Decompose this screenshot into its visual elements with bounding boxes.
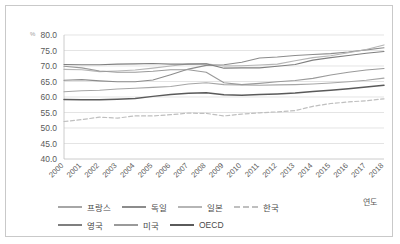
x-tick-label: 2002 — [83, 161, 101, 179]
series-lines — [64, 45, 384, 122]
legend-label: 일본 — [207, 201, 223, 213]
x-tick-label: 2013 — [278, 161, 296, 179]
series-line-2 — [64, 45, 384, 72]
legend-row-1: 프랑스독일일본한국 — [58, 198, 358, 216]
x-tick-label: 2016 — [332, 161, 350, 179]
legend-swatch-icon — [58, 206, 82, 208]
legend-item[interactable]: 독일 — [122, 201, 167, 213]
x-tick-label: 2011 — [243, 161, 261, 179]
x-tick-label: 2017 — [349, 161, 367, 179]
x-tick-label: 2014 — [296, 161, 314, 179]
chart-frame: % 80.075.070.065.060.055.050.045.040.0 2… — [5, 5, 393, 237]
legend-label: OECD — [199, 220, 224, 230]
legend-swatch-icon — [58, 224, 82, 226]
legend-label: 미국 — [143, 219, 159, 231]
x-tick-label: 2015 — [314, 161, 332, 179]
y-tick-label: 70.0 — [40, 61, 57, 71]
legend-item[interactable]: 프랑스 — [58, 201, 111, 213]
chart-legend: 프랑스독일일본한국 영국미국OECD — [58, 198, 358, 234]
x-tick-label: 2018 — [367, 161, 385, 179]
legend-item[interactable]: OECD — [170, 220, 224, 230]
legend-label: 영국 — [87, 219, 103, 231]
x-tick-label: 2012 — [260, 161, 278, 179]
legend-item[interactable]: 영국 — [58, 219, 103, 231]
y-tick-label: 50.0 — [40, 123, 57, 133]
legend-label: 독일 — [151, 201, 167, 213]
x-tick-label: 2007 — [172, 161, 190, 179]
legend-item[interactable]: 일본 — [178, 201, 223, 213]
legend-item[interactable]: 미국 — [114, 219, 159, 231]
legend-label: 한국 — [263, 201, 279, 213]
legend-swatch-icon — [170, 224, 194, 226]
x-tick-label: 2004 — [118, 161, 136, 179]
x-tick-label: 2006 — [154, 161, 172, 179]
legend-swatch-icon — [122, 206, 146, 208]
x-axis-title: 연도 — [363, 196, 377, 207]
y-tick-label: 75.0 — [40, 46, 57, 56]
y-tick-label: 80.0 — [40, 30, 57, 40]
x-tick-label: 2008 — [189, 161, 207, 179]
series-line-3 — [64, 99, 384, 122]
x-tick-label: 2003 — [100, 161, 118, 179]
legend-label: 프랑스 — [87, 201, 111, 213]
x-tick-label: 2001 — [65, 161, 83, 179]
legend-swatch-icon — [114, 224, 138, 226]
y-axis-ticks: 80.075.070.065.060.055.050.045.040.0 — [40, 30, 57, 164]
x-tick-label: 2005 — [136, 161, 154, 179]
y-tick-label: 65.0 — [40, 77, 57, 87]
series-line-6 — [64, 85, 384, 100]
legend-swatch-icon — [234, 206, 258, 208]
legend-swatch-icon — [178, 206, 202, 208]
x-tick-label: 2010 — [225, 161, 243, 179]
x-tick-label: 2009 — [207, 161, 225, 179]
y-tick-label: 40.0 — [40, 154, 57, 164]
legend-item[interactable]: 한국 — [234, 201, 279, 213]
y-tick-label: 55.0 — [40, 108, 57, 118]
y-tick-label: 45.0 — [40, 139, 57, 149]
y-tick-label: 60.0 — [40, 92, 57, 102]
x-axis-ticks: 2000200120022003200420052006200720082009… — [47, 161, 385, 179]
legend-row-2: 영국미국OECD — [58, 216, 358, 234]
